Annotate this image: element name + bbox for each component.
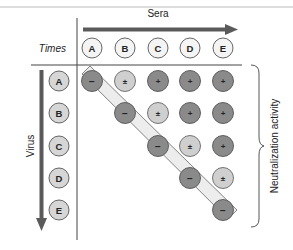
svg-text:−: − [220, 205, 226, 216]
cell-d-e: ± [213, 168, 234, 189]
cell-a-c: + [148, 71, 169, 92]
row-header-d: D [49, 168, 69, 188]
cell-c-c: − [148, 136, 169, 157]
svg-text:−: − [155, 141, 161, 152]
column-header-c: C [148, 38, 168, 58]
svg-text:E: E [56, 205, 62, 216]
sera-arrow-icon [83, 24, 238, 35]
cell-b-d: + [180, 103, 201, 124]
column-headers: A B C D E [82, 38, 233, 58]
cell-b-c: ± [148, 103, 169, 124]
cell-e-e: − [213, 200, 234, 221]
svg-text:+: + [188, 109, 193, 118]
cell-a-a: − [82, 71, 103, 92]
svg-text:±: ± [188, 142, 193, 151]
svg-text:A: A [89, 43, 96, 54]
svg-text:B: B [122, 43, 129, 54]
column-header-d: D [180, 38, 200, 58]
row-header-c: C [49, 136, 69, 156]
row-header-e: E [49, 200, 69, 220]
row-headers: A B C D E [49, 71, 69, 220]
svg-text:±: ± [156, 109, 161, 118]
svg-text:±: ± [123, 77, 128, 86]
svg-text:−: − [187, 173, 193, 184]
column-header-b: B [115, 38, 135, 58]
cell-a-e: + [213, 71, 234, 92]
svg-text:+: + [221, 109, 226, 118]
svg-text:C: C [155, 43, 162, 54]
curly-brace-icon [251, 65, 264, 227]
svg-text:D: D [187, 43, 194, 54]
cell-a-b: ± [115, 71, 136, 92]
column-header-a: A [82, 38, 102, 58]
cell-c-e: + [213, 136, 234, 157]
svg-text:B: B [56, 108, 63, 119]
svg-text:E: E [220, 43, 226, 54]
svg-text:D: D [56, 173, 63, 184]
svg-text:−: − [122, 108, 128, 119]
virus-label: Virus [25, 135, 36, 158]
cell-b-b: − [115, 103, 136, 124]
svg-text:±: ± [221, 174, 226, 183]
cell-c-d: ± [180, 136, 201, 157]
cell-a-d: + [180, 71, 201, 92]
times-label: Times [39, 43, 66, 54]
svg-text:+: + [221, 142, 226, 151]
svg-text:C: C [56, 141, 63, 152]
neutralization-diagram: Sera Times A B C D E Virus [0, 0, 293, 250]
row-header-a: A [49, 71, 69, 91]
column-header-e: E [213, 38, 233, 58]
cell-b-e: + [213, 103, 234, 124]
virus-arrow-icon [36, 70, 47, 231]
cell-d-d: − [180, 168, 201, 189]
svg-text:+: + [221, 77, 226, 86]
svg-text:+: + [188, 77, 193, 86]
sera-label: Sera [147, 8, 169, 19]
neutralization-activity-label: Neutralization activity [269, 99, 280, 193]
row-header-b: B [49, 103, 69, 123]
svg-text:+: + [156, 77, 161, 86]
svg-text:A: A [56, 76, 63, 87]
svg-text:−: − [89, 76, 95, 87]
